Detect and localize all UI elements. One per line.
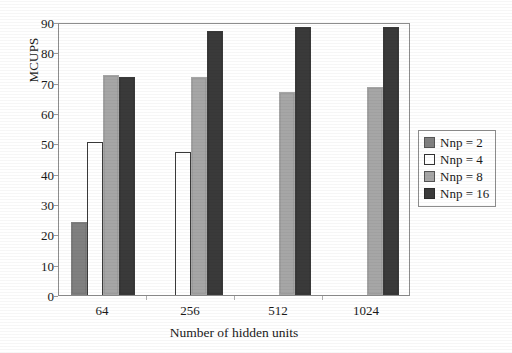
y-tick-mark xyxy=(54,296,58,297)
y-tick-label: 30 xyxy=(20,199,54,212)
bar-group xyxy=(147,24,235,295)
y-tick-label: 20 xyxy=(20,229,54,242)
x-tick-mark xyxy=(234,296,235,300)
y-tick-label: 90 xyxy=(20,17,54,30)
y-tick-mark xyxy=(54,23,58,24)
legend-swatch-icon xyxy=(424,137,435,148)
bar-group xyxy=(323,24,411,295)
bar-nnp16-256 xyxy=(207,31,223,295)
bar-nnp4-64 xyxy=(87,142,103,295)
y-tick-mark xyxy=(54,53,58,54)
x-tick-label: 512 xyxy=(243,303,313,319)
y-tick-label: 80 xyxy=(20,47,54,60)
chart-legend: Nnp = 2Nnp = 4Nnp = 8Nnp = 16 xyxy=(418,130,496,207)
x-tick-label: 1024 xyxy=(331,303,401,319)
y-tick-label: 60 xyxy=(20,108,54,121)
legend-label: Nnp = 2 xyxy=(440,136,483,149)
y-tick-label: 10 xyxy=(20,260,54,273)
legend-item[interactable]: Nnp = 2 xyxy=(424,134,489,151)
y-tick-mark xyxy=(54,266,58,267)
y-tick-mark xyxy=(54,144,58,145)
legend-swatch-icon xyxy=(424,188,435,199)
bar-nnp16-1024 xyxy=(383,27,399,295)
x-tick-mark xyxy=(146,296,147,300)
x-tick-label: 256 xyxy=(155,303,225,319)
bar-nnp16-64 xyxy=(119,77,135,295)
y-tick-label: 40 xyxy=(20,169,54,182)
bar-nnp16-512 xyxy=(295,27,311,295)
bar-nnp8-1024 xyxy=(367,87,383,295)
plot-bars-layer xyxy=(59,24,409,295)
y-tick-mark xyxy=(54,114,58,115)
legend-item[interactable]: Nnp = 16 xyxy=(424,185,489,202)
legend-item[interactable]: Nnp = 4 xyxy=(424,151,489,168)
y-tick-label: 70 xyxy=(20,78,54,91)
y-tick-mark xyxy=(54,235,58,236)
bar-group xyxy=(235,24,323,295)
bar-nnp4-256 xyxy=(175,152,191,295)
bar-group xyxy=(59,24,147,295)
legend-swatch-icon xyxy=(424,171,435,182)
legend-swatch-icon xyxy=(424,154,435,165)
y-tick-mark xyxy=(54,84,58,85)
legend-item[interactable]: Nnp = 8 xyxy=(424,168,489,185)
bar-nnp2-64 xyxy=(71,222,87,295)
plot-area xyxy=(58,23,410,296)
y-tick-label: 50 xyxy=(20,138,54,151)
bar-nnp8-256 xyxy=(191,77,207,295)
y-tick-label: 0 xyxy=(20,290,54,303)
x-tick-mark xyxy=(322,296,323,300)
y-axis-ticks: 0102030405060708090 xyxy=(16,0,54,353)
legend-label: Nnp = 4 xyxy=(440,153,483,166)
bar-chart-figure: MCUPS 0102030405060708090 Number of hidd… xyxy=(0,0,512,353)
y-tick-mark xyxy=(54,205,58,206)
bar-nnp8-512 xyxy=(279,92,295,295)
y-tick-mark xyxy=(54,175,58,176)
x-axis-title: Number of hidden units xyxy=(58,325,410,341)
x-tick-label: 64 xyxy=(67,303,137,319)
legend-label: Nnp = 16 xyxy=(440,187,489,200)
legend-label: Nnp = 8 xyxy=(440,170,483,183)
bar-nnp8-64 xyxy=(103,75,119,295)
